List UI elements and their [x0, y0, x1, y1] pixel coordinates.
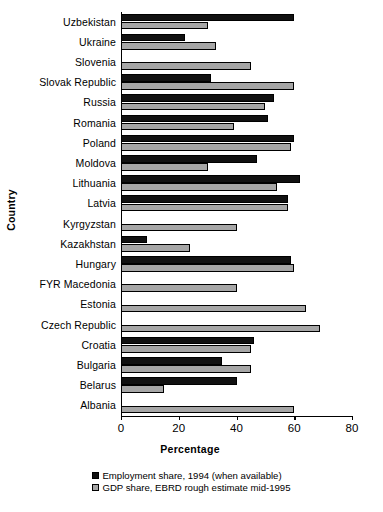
bar-group: [121, 234, 375, 254]
bar-chart: Country UzbekistanUkraineSloveniaSlovak …: [0, 0, 383, 512]
bar-group: [121, 93, 375, 113]
category-label: Poland: [20, 138, 121, 149]
legend-swatch-employment: [92, 472, 99, 479]
bar-row: Bulgaria: [20, 355, 375, 375]
bar-row: Russia: [20, 93, 375, 113]
bar-row: Kazakhstan: [20, 234, 375, 254]
x-tick-label: 40: [217, 422, 257, 434]
bar-employment: [121, 14, 294, 22]
bar-row: Romania: [20, 113, 375, 133]
bar-gdp: [121, 143, 291, 151]
bar-gdp: [121, 62, 251, 70]
plot-area: UzbekistanUkraineSloveniaSlovak Republic…: [20, 12, 375, 416]
x-tick-mark: [352, 416, 353, 420]
bar-group: [121, 32, 375, 52]
bar-group: [121, 355, 375, 375]
bar-gdp: [121, 264, 294, 272]
bar-group: [121, 12, 375, 32]
category-label: Uzbekistan: [20, 17, 121, 28]
bar-gdp: [121, 123, 234, 131]
category-label: Bulgaria: [20, 360, 121, 371]
bar-row: Estonia: [20, 295, 375, 315]
bar-employment: [121, 94, 274, 102]
bar-group: [121, 295, 375, 315]
bar-gdp: [121, 385, 164, 393]
bar-gdp: [121, 345, 251, 353]
bar-employment: [121, 195, 288, 203]
bar-employment: [121, 115, 268, 123]
bar-gdp: [121, 163, 208, 171]
x-tick-mark: [237, 416, 238, 420]
bar-row: Moldova: [20, 153, 375, 173]
bar-gdp: [121, 22, 208, 30]
bar-group: [121, 275, 375, 295]
bar-row: Latvia: [20, 194, 375, 214]
legend-item: GDP share, EBRD rough estimate mid-1995: [92, 482, 290, 494]
bar-row: Uzbekistan: [20, 12, 375, 32]
category-label: Slovenia: [20, 57, 121, 68]
bar-rows: UzbekistanUkraineSloveniaSlovak Republic…: [20, 12, 375, 416]
bar-row: Hungary: [20, 254, 375, 274]
bar-row: Poland: [20, 133, 375, 153]
category-label: Albania: [20, 400, 121, 411]
bar-employment: [121, 74, 211, 82]
legend-swatch-gdp: [92, 484, 99, 491]
bar-employment: [121, 377, 237, 385]
x-tick-label: 0: [101, 422, 141, 434]
y-axis-title: Country: [2, 0, 20, 420]
bar-group: [121, 52, 375, 72]
category-label: FYR Macedonia: [20, 279, 121, 290]
bar-group: [121, 153, 375, 173]
bar-gdp: [121, 305, 306, 313]
bar-row: FYR Macedonia: [20, 275, 375, 295]
category-label: Russia: [20, 97, 121, 108]
bar-employment: [121, 175, 300, 183]
category-label: Ukraine: [20, 37, 121, 48]
bar-employment: [121, 256, 291, 264]
bar-gdp: [121, 183, 277, 191]
x-tick-label: 60: [274, 422, 314, 434]
bar-gdp: [121, 284, 237, 292]
category-label: Czech Republic: [20, 320, 121, 331]
x-tick-mark: [121, 416, 122, 420]
category-label: Latvia: [20, 198, 121, 209]
bar-group: [121, 335, 375, 355]
bar-group: [121, 174, 375, 194]
bar-row: Kyrgyzstan: [20, 214, 375, 234]
bar-employment: [121, 135, 294, 143]
bar-gdp: [121, 82, 294, 90]
bar-row: Belarus: [20, 376, 375, 396]
legend-item: Employment share, 1994 (when available): [92, 470, 281, 482]
category-label: Moldova: [20, 158, 121, 169]
x-tick-mark: [294, 416, 295, 420]
bar-row: Albania: [20, 396, 375, 416]
bar-row: Croatia: [20, 335, 375, 355]
bar-employment: [121, 357, 222, 365]
bar-group: [121, 113, 375, 133]
category-label: Slovak Republic: [20, 77, 121, 88]
x-tick-label: 20: [159, 422, 199, 434]
category-label: Hungary: [20, 259, 121, 270]
legend-label: Employment share, 1994 (when available): [102, 470, 281, 482]
x-tick-mark: [179, 416, 180, 420]
category-label: Croatia: [20, 340, 121, 351]
bar-gdp: [121, 224, 237, 232]
bar-gdp: [121, 325, 320, 333]
bar-gdp: [121, 42, 216, 50]
category-label: Romania: [20, 118, 121, 129]
bar-employment: [121, 155, 257, 163]
legend-rows: Employment share, 1994 (when available)G…: [92, 470, 290, 493]
bar-gdp: [121, 244, 190, 252]
bar-row: Czech Republic: [20, 315, 375, 335]
bar-gdp: [121, 204, 288, 212]
y-axis-title-label: Country: [5, 189, 17, 231]
bar-employment: [121, 236, 147, 244]
x-tick-label: 80: [332, 422, 372, 434]
category-label: Kyrgyzstan: [20, 219, 121, 230]
category-label: Lithuania: [20, 178, 121, 189]
bar-group: [121, 214, 375, 234]
y-axis-line: [121, 12, 122, 416]
bar-group: [121, 194, 375, 214]
bar-group: [121, 133, 375, 153]
category-label: Estonia: [20, 299, 121, 310]
